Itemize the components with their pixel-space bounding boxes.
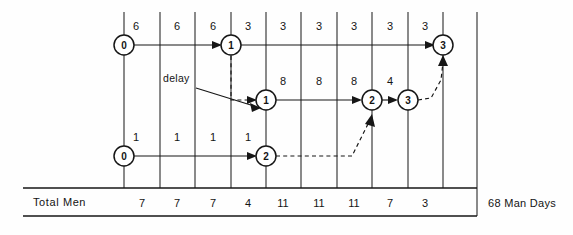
total-value-9: 3 xyxy=(422,197,428,209)
middle-value-8: 4 xyxy=(387,75,393,87)
node-top-3-label: 3 xyxy=(440,40,446,51)
total-value-4: 4 xyxy=(245,197,251,209)
man-days-summary: 68 Man Days xyxy=(488,197,556,209)
totals-row-label: Total Men xyxy=(33,196,86,208)
top-value-2: 6 xyxy=(174,20,180,32)
dependency-bottom2-to-middle2 xyxy=(276,122,369,156)
dependency-arrow-into-top-node-3 xyxy=(438,55,448,66)
total-value-5: 11 xyxy=(277,197,288,209)
top-value-5: 3 xyxy=(280,20,286,32)
middle-arrow-into-node-3 xyxy=(388,96,398,104)
top-value-1: 6 xyxy=(133,20,139,32)
top-value-6: 3 xyxy=(316,20,322,32)
middle-value-5: 8 xyxy=(280,75,286,87)
top-value-9: 3 xyxy=(422,20,428,32)
dependency-top1-to-middle1 xyxy=(231,56,249,100)
bottom-value-2: 1 xyxy=(174,131,180,143)
dependency-arrow-into-middle-node-2 xyxy=(365,114,375,127)
node-middle-1-label: 1 xyxy=(263,95,269,106)
top-value-4: 3 xyxy=(245,20,251,32)
node-bottom-0-label: 0 xyxy=(121,151,127,162)
delay-leader-line xyxy=(196,88,254,106)
total-value-7: 11 xyxy=(348,197,359,209)
delay-annotation: delay xyxy=(163,72,261,112)
middle-arrow-into-node-2 xyxy=(352,96,362,104)
node-top-1-label: 1 xyxy=(228,40,234,51)
total-value-8: 7 xyxy=(387,197,393,209)
bottom-value-1: 1 xyxy=(133,131,139,143)
bottom-row-values: 1 1 1 1 xyxy=(133,131,251,143)
top-value-7: 3 xyxy=(351,20,357,32)
dependency-middle3-to-top3 xyxy=(418,62,443,100)
total-value-3: 7 xyxy=(210,197,216,209)
top-row-values: 6 6 6 3 3 3 3 3 3 xyxy=(133,20,428,32)
delay-label: delay xyxy=(163,72,190,84)
bottom-value-3: 1 xyxy=(210,131,216,143)
total-value-1: 7 xyxy=(139,197,145,209)
node-bottom-2-label: 2 xyxy=(263,151,269,162)
middle-value-7: 8 xyxy=(351,75,357,87)
bottom-row-flow xyxy=(134,114,375,160)
total-value-6: 11 xyxy=(313,197,324,209)
figure-canvas: 0 1 3 6 6 6 3 3 3 3 3 3 xyxy=(0,0,573,235)
top-row-flow xyxy=(134,41,435,49)
total-value-2: 7 xyxy=(174,197,180,209)
totals-table: Total Men 7 7 7 4 11 11 11 7 3 68 Man Da… xyxy=(23,188,556,216)
network-diagram: 0 1 3 6 6 6 3 3 3 3 3 3 xyxy=(0,0,573,235)
top-value-8: 3 xyxy=(387,20,393,32)
node-top-0-label: 0 xyxy=(121,40,127,51)
node-middle-3-label: 3 xyxy=(405,95,411,106)
bottom-value-4: 1 xyxy=(245,131,251,143)
node-middle-2-label: 2 xyxy=(369,95,375,106)
middle-value-6: 8 xyxy=(316,75,322,87)
top-value-3: 6 xyxy=(210,20,216,32)
